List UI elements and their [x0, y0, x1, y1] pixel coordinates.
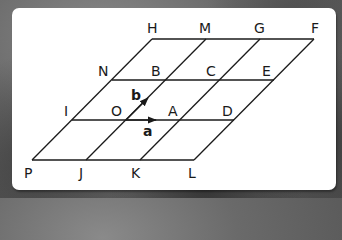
vector-label-b: b — [131, 87, 141, 103]
point-label-B: B — [151, 63, 161, 79]
point-label-F: F — [311, 20, 319, 36]
point-label-C: C — [206, 63, 216, 79]
point-label-N: N — [98, 63, 108, 79]
point-label-H: H — [147, 20, 158, 36]
point-label-K: K — [131, 165, 141, 181]
point-label-M: M — [199, 20, 211, 36]
point-label-P: P — [24, 165, 32, 181]
grid-lines — [32, 39, 314, 160]
parallelogram-grid-diagram: H M G F N B C E I O A D P J K L a b — [0, 0, 342, 198]
line-LF — [194, 39, 314, 160]
point-label-J: J — [78, 165, 83, 181]
point-label-D: D — [222, 103, 233, 119]
point-label-A: A — [168, 103, 178, 119]
vector-label-a: a — [143, 123, 152, 139]
point-label-L: L — [188, 165, 196, 181]
point-label-O: O — [111, 103, 122, 119]
line-KG — [140, 39, 260, 160]
point-label-I: I — [64, 103, 68, 119]
point-label-E: E — [262, 63, 271, 79]
point-label-G: G — [254, 20, 265, 36]
